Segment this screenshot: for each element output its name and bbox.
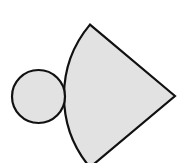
circular-sector: [64, 25, 175, 163]
diagram-canvas: [0, 0, 185, 163]
base-circle: [12, 70, 65, 123]
